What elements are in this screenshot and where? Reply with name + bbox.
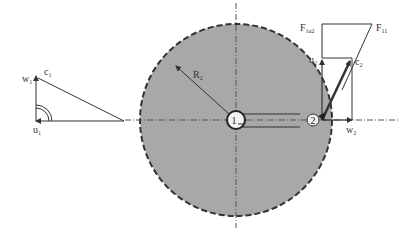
- f-1u2-label: F1u2: [300, 22, 315, 34]
- svg-text:2: 2: [311, 115, 316, 126]
- w1-label: w1: [22, 73, 32, 85]
- u2-label: u2: [309, 54, 317, 66]
- inlet-velocity-triangle: w1 c1 u1: [22, 66, 124, 136]
- c1-label: c1: [44, 66, 51, 78]
- svg-text:1: 1: [232, 115, 237, 126]
- point-2-marker: 2: [307, 114, 319, 126]
- diagram-canvas: R2 1 2 w1 c1 u1 F1u2: [0, 0, 405, 232]
- u1-label: u1: [33, 124, 41, 136]
- hub-point-1: 1: [227, 111, 245, 129]
- w2-label: w2: [346, 124, 356, 136]
- c2-label: c2: [355, 56, 362, 68]
- f-11-label: F11: [376, 22, 387, 34]
